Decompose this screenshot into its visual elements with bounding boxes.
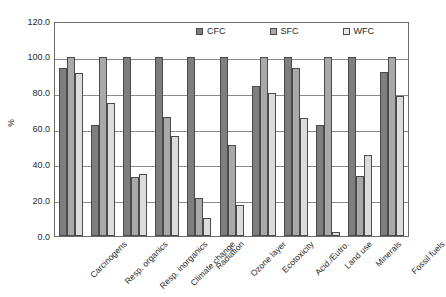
bar-group xyxy=(280,23,312,236)
bar-sfc-0 xyxy=(67,57,75,236)
bar-sfc-1 xyxy=(99,57,107,236)
bar-wfc-5 xyxy=(236,205,244,236)
bar-group xyxy=(312,23,344,236)
y-tick-label: 120.0 xyxy=(27,18,50,27)
bar-cfc-8 xyxy=(316,125,324,236)
bar-sfc-6 xyxy=(260,57,268,236)
bar-wfc-2 xyxy=(139,174,147,236)
bar-group xyxy=(344,23,376,236)
legend-item-sfc: SFC xyxy=(270,26,299,36)
bar-wfc-3 xyxy=(171,136,179,236)
x-tick-label: Acid./Eutro. xyxy=(313,239,351,277)
bar-group xyxy=(215,23,247,236)
y-tick-label: 60.0 xyxy=(32,125,50,134)
bar-group xyxy=(376,23,408,236)
bar-cfc-6 xyxy=(252,86,260,236)
bar-wfc-10 xyxy=(396,96,404,236)
bar-cfc-1 xyxy=(91,125,99,236)
legend-label-wfc: WFC xyxy=(354,26,375,36)
bar-sfc-10 xyxy=(388,57,396,236)
bar-cfc-4 xyxy=(187,57,195,236)
bar-sfc-7 xyxy=(292,68,300,236)
legend-swatch-icon-cfc xyxy=(196,28,203,35)
legend-item-cfc: CFC xyxy=(196,26,226,36)
y-tick-label: 80.0 xyxy=(32,89,50,98)
plot-area xyxy=(54,22,409,237)
bar-wfc-8 xyxy=(332,232,340,236)
bar-sfc-4 xyxy=(195,198,203,236)
x-tick-label: Ozone layer xyxy=(249,239,288,278)
bar-cfc-5 xyxy=(220,57,228,236)
bar-group xyxy=(183,23,215,236)
bar-cfc-2 xyxy=(123,57,131,236)
bar-group xyxy=(55,23,87,236)
bar-sfc-8 xyxy=(324,57,332,236)
legend-label-sfc: SFC xyxy=(281,26,299,36)
y-axis-tick-labels: 0.020.040.060.080.0100.0120.0 xyxy=(14,0,52,297)
bar-sfc-5 xyxy=(228,145,236,236)
bar-group xyxy=(87,23,119,236)
x-axis-tick-labels: CarcinogensResp. organicsResp. inorganic… xyxy=(54,237,409,297)
y-tick-label: 40.0 xyxy=(32,161,50,170)
legend-swatch-icon-wfc xyxy=(343,28,350,35)
bar-group xyxy=(151,23,183,236)
bar-wfc-9 xyxy=(364,155,372,236)
legend-item-wfc: WFC xyxy=(343,26,375,36)
bar-wfc-4 xyxy=(203,218,211,236)
bar-sfc-3 xyxy=(163,117,171,236)
bar-cfc-9 xyxy=(348,57,356,236)
chart-legend: CFC SFC WFC xyxy=(196,26,374,36)
bar-cfc-7 xyxy=(284,57,292,236)
x-tick-label: Fossil fuels xyxy=(409,239,446,276)
y-tick-label: 100.0 xyxy=(27,53,50,62)
x-tick-label: Minerals xyxy=(374,239,404,269)
bar-cfc-10 xyxy=(380,72,388,236)
x-tick-label: Carcinogens xyxy=(88,239,129,280)
bar-group xyxy=(119,23,151,236)
bar-sfc-2 xyxy=(131,177,139,236)
bar-wfc-1 xyxy=(107,103,115,236)
bar-groups xyxy=(55,23,408,236)
bar-wfc-0 xyxy=(75,73,83,236)
legend-label-cfc: CFC xyxy=(207,26,226,36)
bar-wfc-6 xyxy=(268,93,276,236)
bar-sfc-9 xyxy=(356,176,364,236)
bar-cfc-0 xyxy=(59,68,67,236)
bar-cfc-3 xyxy=(155,57,163,236)
bar-group xyxy=(248,23,280,236)
y-tick-label: 20.0 xyxy=(32,197,50,206)
legend-swatch-icon-sfc xyxy=(270,28,277,35)
y-tick-label: 0.0 xyxy=(37,233,50,242)
bar-wfc-7 xyxy=(300,118,308,236)
